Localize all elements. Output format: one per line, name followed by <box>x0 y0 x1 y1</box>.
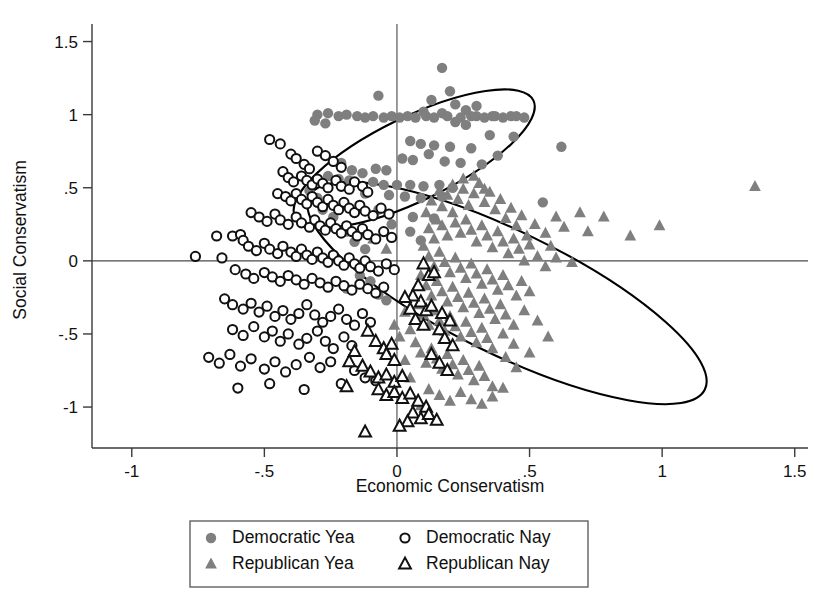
data-point <box>397 153 407 163</box>
data-point <box>556 142 566 152</box>
data-point <box>334 305 343 314</box>
data-point <box>305 164 314 173</box>
data-point <box>405 180 415 190</box>
data-point <box>265 135 274 144</box>
data-point <box>270 357 279 366</box>
y-tick-label: 1 <box>69 106 78 125</box>
legend-label: Republican Nay <box>426 553 550 573</box>
data-point <box>225 350 234 359</box>
legend-label: Republican Yea <box>232 553 354 573</box>
y-tick-label: .5 <box>64 179 78 198</box>
data-point <box>466 143 476 153</box>
data-point <box>471 101 481 111</box>
data-point <box>321 337 330 346</box>
data-point <box>450 99 460 109</box>
data-point <box>368 177 378 187</box>
data-point <box>358 309 367 318</box>
data-point <box>405 136 415 146</box>
data-point <box>326 312 335 321</box>
data-point <box>247 354 256 363</box>
data-point <box>323 108 333 118</box>
data-point <box>249 322 258 331</box>
data-point <box>455 158 465 168</box>
data-point <box>405 226 415 236</box>
data-point <box>408 212 418 222</box>
data-point <box>337 163 346 172</box>
data-point <box>508 131 518 141</box>
data-point <box>363 188 372 197</box>
data-point <box>228 325 237 334</box>
data-point <box>260 364 269 373</box>
data-point <box>379 283 388 292</box>
data-point <box>392 180 402 190</box>
y-tick-label: -.5 <box>58 325 78 344</box>
data-point <box>368 111 378 121</box>
data-point <box>233 383 242 392</box>
scatter-plot: -1-.50.511.5-1-.50.511.5 Economic Conser… <box>0 0 830 611</box>
data-point <box>487 111 497 121</box>
data-point <box>310 115 320 125</box>
y-tick-label: 0 <box>69 252 78 271</box>
data-point <box>410 112 420 122</box>
y-axis-title: Social Conservatism <box>10 160 30 320</box>
data-point <box>313 326 322 335</box>
x-tick-label: -.5 <box>254 462 274 481</box>
data-point <box>368 211 377 220</box>
data-point <box>284 220 293 229</box>
data-point <box>450 117 460 127</box>
data-point <box>320 118 330 128</box>
data-point <box>284 329 293 338</box>
data-point <box>236 362 245 371</box>
data-point <box>371 234 380 243</box>
data-point <box>439 156 449 166</box>
data-point <box>215 359 224 368</box>
data-point <box>252 246 261 255</box>
data-point <box>326 357 335 366</box>
data-point <box>390 265 399 274</box>
legend: Democratic YeaDemocratic NayRepublican Y… <box>190 521 588 587</box>
data-point <box>373 90 383 100</box>
data-point <box>426 95 436 105</box>
x-axis-title: Economic Conservatism <box>356 476 545 496</box>
data-point <box>262 217 271 226</box>
data-point <box>384 190 394 200</box>
data-point <box>381 295 391 305</box>
legend-label: Democratic Nay <box>426 527 551 547</box>
data-point <box>302 334 311 343</box>
data-point <box>371 164 381 174</box>
data-point <box>276 139 285 148</box>
data-point <box>276 337 285 346</box>
legend-filled-circle-icon <box>206 533 216 543</box>
data-point <box>418 181 428 191</box>
y-tick-label: -1 <box>63 398 78 417</box>
data-point <box>247 299 256 308</box>
data-point <box>191 252 200 261</box>
data-point <box>323 183 332 192</box>
data-point <box>519 112 529 122</box>
data-point <box>477 159 487 169</box>
data-point <box>466 111 476 121</box>
y-tick-label: 1.5 <box>54 33 78 52</box>
data-point <box>300 385 309 394</box>
chart-root: -1-.50.511.5-1-.50.511.5 Economic Conser… <box>0 0 830 611</box>
data-point <box>204 353 213 362</box>
x-tick-label: -1 <box>124 462 139 481</box>
data-point <box>278 306 287 315</box>
legend-open-circle-icon <box>400 533 409 542</box>
data-point <box>217 253 226 262</box>
data-point <box>416 139 426 149</box>
data-point <box>294 309 303 318</box>
data-point <box>360 244 370 254</box>
x-tick-label: 1.5 <box>783 462 807 481</box>
data-point <box>384 209 393 218</box>
data-point <box>315 363 324 372</box>
data-point <box>386 219 396 229</box>
data-point <box>350 321 359 330</box>
data-point <box>445 86 455 96</box>
data-point <box>341 109 351 119</box>
legend-label: Democratic Yea <box>232 527 355 547</box>
data-point <box>429 140 439 150</box>
data-point <box>381 165 391 175</box>
data-point <box>429 112 439 122</box>
data-point <box>347 165 357 175</box>
